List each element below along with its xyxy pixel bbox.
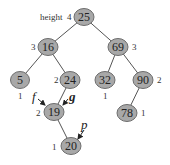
node-key: 78 — [121, 106, 133, 120]
pointer-p: p — [78, 117, 88, 140]
tree-node-78: 78 — [117, 105, 137, 122]
height-label-24: 2 — [54, 75, 59, 85]
arrow-icon — [63, 99, 68, 105]
node-key: 69 — [112, 40, 124, 54]
tree-node-32: 32 — [95, 72, 115, 89]
tree-node-16: 16 — [38, 39, 58, 56]
node-key: 19 — [48, 105, 60, 119]
height-prefix-label: height — [40, 12, 63, 22]
height-label-90: 2 — [157, 75, 162, 85]
height-label-5: 1 — [18, 91, 23, 101]
node-key: 25 — [78, 10, 90, 24]
tree-node-90: 90 — [133, 72, 153, 89]
node-key: 5 — [17, 73, 23, 87]
height-label-32: 1 — [103, 91, 108, 101]
tree-node-69: 69 — [108, 39, 128, 56]
height-label-25: 4 — [67, 12, 72, 22]
tree-node-19: 19 — [44, 104, 64, 121]
node-key: 20 — [65, 139, 77, 153]
avl-tree-diagram: 25 16 69 5 24 32 — [0, 0, 170, 165]
node-key: 24 — [64, 73, 76, 87]
pointer-label-f: f — [32, 89, 38, 104]
tree-node-24: 24 — [60, 72, 80, 89]
height-label-69: 3 — [132, 42, 137, 52]
height-label-19: 2 — [36, 108, 41, 118]
height-label-78: 1 — [141, 108, 146, 118]
tree-node-5: 5 — [11, 72, 30, 89]
height-label-20: 1 — [52, 142, 57, 152]
node-key: 90 — [137, 73, 149, 87]
height-label-16: 3 — [31, 42, 36, 52]
arrow-icon — [38, 99, 45, 105]
pointer-label-p: p — [80, 117, 88, 132]
tree-node-25: 25 — [74, 9, 94, 26]
tree-node-20: 20 — [61, 138, 81, 155]
node-key: 16 — [42, 40, 54, 54]
pointer-label-g: g — [68, 89, 76, 104]
node-key: 32 — [99, 73, 111, 87]
pointer-f: f — [32, 89, 45, 106]
